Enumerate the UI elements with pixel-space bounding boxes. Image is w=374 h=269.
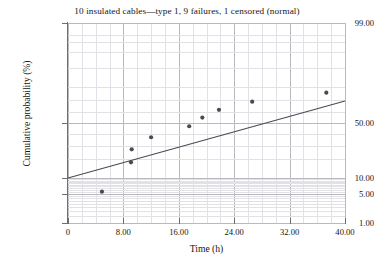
y-tick-mark	[62, 178, 68, 179]
x-tick-label: 0	[66, 227, 70, 237]
chart-title: 10 insulated cables—type 1, 9 failures, …	[0, 6, 374, 16]
y-tick-label: 10.00	[312, 173, 374, 183]
x-tick-mark	[290, 218, 291, 224]
x-tick-mark	[68, 218, 69, 224]
y-axis-title: Cumulative probability (%)	[21, 19, 32, 209]
x-tick-mark	[123, 218, 124, 224]
x-tick-mark	[179, 218, 180, 224]
x-tick-mark	[345, 218, 346, 224]
data-point-marker	[250, 100, 254, 104]
probability-plot-figure: 10 insulated cables—type 1, 9 failures, …	[0, 0, 374, 269]
x-tick-label: 16.00	[169, 227, 188, 237]
data-point-marker	[187, 124, 191, 128]
x-tick-label: 24.00	[225, 227, 244, 237]
y-tick-label: 50.00	[312, 118, 374, 128]
y-tick-mark	[62, 23, 68, 24]
data-point-marker	[200, 115, 204, 119]
y-tick-mark	[62, 194, 68, 195]
data-point-marker	[324, 91, 328, 95]
x-tick-mark	[234, 218, 235, 224]
x-tick-label: 32.00	[280, 227, 299, 237]
x-axis-title: Time (h)	[68, 243, 345, 254]
data-point-marker	[130, 147, 134, 151]
data-point-marker	[100, 190, 104, 194]
x-tick-label: 40.00	[335, 227, 354, 237]
data-layer	[68, 23, 345, 223]
x-tick-label: 8.00	[116, 227, 131, 237]
data-point-marker	[217, 108, 221, 112]
y-tick-label: 5.00	[312, 189, 374, 199]
data-point-marker	[149, 135, 153, 139]
y-tick-mark	[62, 123, 68, 124]
data-point-marker	[129, 160, 133, 164]
fitted-normal-line	[68, 101, 345, 178]
y-tick-label: 99.00	[312, 18, 374, 28]
plot-area	[68, 23, 345, 223]
